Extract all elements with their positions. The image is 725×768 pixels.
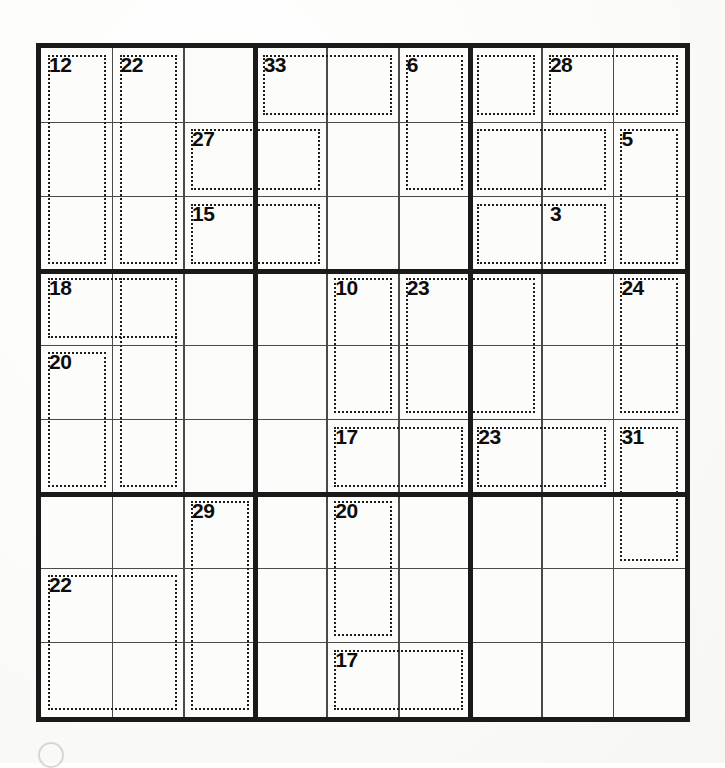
cage-sum-17: 17: [335, 649, 357, 670]
cage-sum-23: 23: [407, 277, 429, 298]
sudoku-cell[interactable]: [184, 271, 256, 345]
sudoku-cell[interactable]: [470, 494, 542, 568]
sudoku-cell[interactable]: [399, 494, 471, 568]
sudoku-cell[interactable]: [542, 345, 614, 419]
sudoku-grid[interactable]: 122227331562853182010232417233129202217: [36, 43, 690, 722]
sudoku-cell[interactable]: [327, 197, 399, 271]
cage-sum-33: 33: [264, 54, 286, 75]
cage-sum-15: 15: [192, 203, 214, 224]
killer-sudoku-puzzle: 122227331562853182010232417233129202217: [36, 43, 690, 722]
cage-sum-20: 20: [335, 500, 357, 521]
outline-r1c7: [477, 55, 535, 115]
sudoku-cell[interactable]: [470, 643, 542, 717]
sudoku-cell[interactable]: [399, 568, 471, 642]
sudoku-cell[interactable]: [542, 494, 614, 568]
sudoku-cell[interactable]: [256, 271, 328, 345]
sudoku-cell[interactable]: [113, 494, 185, 568]
sudoku-cell[interactable]: [327, 122, 399, 196]
cage-sum-12: 12: [49, 54, 71, 75]
page-corner-mark: [38, 742, 64, 768]
sudoku-cell[interactable]: [542, 643, 614, 717]
cage-sum-29: 29: [192, 500, 214, 521]
outline-3: [477, 204, 606, 264]
cage-sum-31: 31: [621, 426, 643, 447]
cage-sum-6: 6: [407, 54, 418, 75]
sudoku-cell[interactable]: [470, 568, 542, 642]
cage-sum-22: 22: [121, 54, 143, 75]
sudoku-cell[interactable]: [613, 643, 685, 717]
sudoku-cell[interactable]: [613, 568, 685, 642]
sudoku-cell[interactable]: [542, 271, 614, 345]
cage-sum-18: 18: [49, 277, 71, 298]
sudoku-cell[interactable]: [256, 420, 328, 494]
sudoku-cell[interactable]: [256, 643, 328, 717]
cage-sum-17: 17: [335, 426, 357, 447]
sudoku-cell[interactable]: [41, 494, 113, 568]
cage-sum-3: 3: [550, 203, 561, 224]
outline-12: [48, 55, 106, 264]
sudoku-cell[interactable]: [256, 494, 328, 568]
sudoku-cell[interactable]: [542, 568, 614, 642]
cage-sum-5: 5: [621, 128, 632, 149]
cage-sum-28: 28: [550, 54, 572, 75]
outline-22a: [120, 55, 178, 264]
outline-c2mid: [120, 278, 178, 487]
cage-sum-10: 10: [335, 277, 357, 298]
sudoku-cell[interactable]: [256, 345, 328, 419]
cage-sum-23: 23: [478, 426, 500, 447]
sudoku-cell[interactable]: [184, 345, 256, 419]
sudoku-cell[interactable]: [184, 48, 256, 122]
sudoku-cell[interactable]: [399, 197, 471, 271]
sudoku-cell[interactable]: [184, 420, 256, 494]
outline-29: [191, 501, 249, 710]
cage-sum-22: 22: [49, 574, 71, 595]
sudoku-cell[interactable]: [256, 568, 328, 642]
cage-sum-24: 24: [621, 277, 643, 298]
cage-sum-27: 27: [192, 128, 214, 149]
cage-sum-20: 20: [49, 351, 71, 372]
outline-r2c7: [477, 129, 606, 189]
